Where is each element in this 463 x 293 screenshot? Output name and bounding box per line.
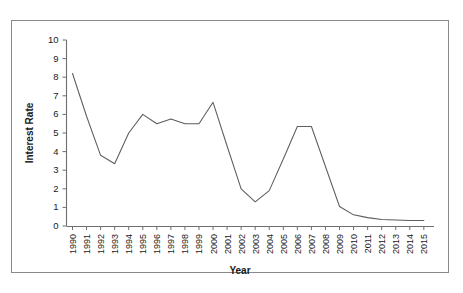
x-axis-tick-label: 1994 — [124, 234, 134, 254]
plot-area: 012345678910 199019911992199319941995199… — [0, 0, 463, 293]
x-axis: 1990199119921993199419951996199719981999… — [67, 226, 435, 254]
y-axis-ticks — [63, 40, 67, 226]
x-axis-tick-label: 2007 — [307, 234, 317, 254]
y-axis-tick-label: 5 — [53, 127, 58, 138]
interest-rate-series-line — [73, 73, 424, 220]
y-axis-tick-label: 4 — [53, 146, 58, 157]
y-axis-tick-labels: 012345678910 — [48, 34, 59, 231]
x-axis-tick-labels: 1990199119921993199419951996199719981999… — [68, 234, 429, 254]
y-axis-tick-label: 2 — [53, 183, 58, 194]
x-axis-tick-label: 1995 — [138, 234, 148, 254]
y-axis-tick-label: 0 — [53, 220, 58, 231]
x-axis-tick-label: 1992 — [96, 234, 106, 254]
interest-rate-line-chart: 012345678910 199019911992199319941995199… — [0, 0, 463, 293]
x-axis-tick-label: 1991 — [82, 234, 92, 254]
x-axis-tick-label: 2001 — [223, 234, 233, 254]
x-axis-tick-label: 2003 — [251, 234, 261, 254]
x-axis-tick-label: 2010 — [349, 234, 359, 254]
x-axis-tick-label: 1993 — [110, 234, 120, 254]
x-axis-tick-label: 1997 — [166, 234, 176, 254]
x-axis-tick-label: 2002 — [237, 234, 247, 254]
x-axis-tick-label: 2005 — [279, 234, 289, 254]
y-axis-tick-label: 9 — [53, 53, 58, 64]
x-axis-tick-label: 2000 — [209, 234, 219, 254]
x-axis-tick-label: 1999 — [194, 234, 204, 254]
y-axis-tick-label: 3 — [53, 164, 58, 175]
y-axis-tick-label: 1 — [53, 201, 58, 212]
x-axis-tick-label: 2014 — [405, 234, 415, 254]
x-axis-tick-label: 1996 — [152, 234, 162, 254]
y-axis-tick-label: 6 — [53, 108, 58, 119]
figure-container: 012345678910 199019911992199319941995199… — [0, 0, 463, 293]
x-axis-tick-label: 2012 — [377, 234, 387, 254]
y-axis-tick-label: 10 — [48, 34, 59, 45]
y-axis-title: Interest Rate — [24, 102, 35, 163]
x-axis-tick-label: 2004 — [265, 234, 275, 254]
x-axis-tick-label: 1990 — [68, 234, 78, 254]
y-axis-tick-label: 7 — [53, 90, 58, 101]
y-axis: 012345678910 — [48, 34, 67, 231]
x-axis-tick-label: 2015 — [419, 234, 429, 254]
x-axis-tick-label: 1998 — [180, 234, 190, 254]
x-axis-tick-label: 2006 — [293, 234, 303, 254]
y-axis-tick-label: 8 — [53, 71, 58, 82]
x-axis-tick-label: 2009 — [335, 234, 345, 254]
x-axis-tick-label: 2013 — [391, 234, 401, 254]
x-axis-tick-label: 2008 — [321, 234, 331, 254]
x-axis-tick-label: 2011 — [363, 234, 373, 253]
x-axis-title: Year — [229, 265, 250, 276]
